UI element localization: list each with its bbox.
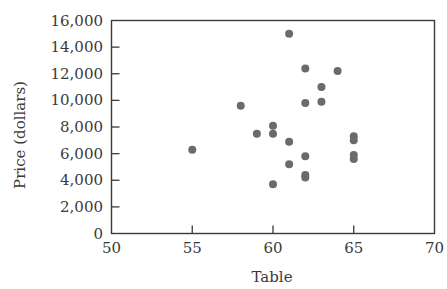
data-point — [269, 122, 277, 130]
data-point — [237, 102, 245, 110]
data-point — [253, 130, 261, 138]
data-point — [285, 160, 293, 168]
data-point — [350, 136, 358, 144]
x-tick-label: 50 — [102, 239, 121, 257]
data-point — [301, 64, 309, 72]
data-point — [334, 67, 342, 75]
data-point — [285, 138, 293, 146]
data-point — [269, 130, 277, 138]
data-point — [269, 180, 277, 188]
y-tick-label: 4,000 — [60, 171, 103, 189]
y-tick-label: 10,000 — [51, 91, 104, 109]
y-axis-title: Price (dollars) — [11, 81, 29, 189]
data-point — [285, 30, 293, 38]
data-point — [350, 155, 358, 163]
y-axis: 02,0004,0006,0008,00010,00012,00014,0001… — [51, 12, 120, 243]
data-point — [317, 83, 325, 91]
data-point — [301, 174, 309, 182]
scatter-chart: 02,0004,0006,0008,00010,00012,00014,0001… — [0, 0, 447, 289]
x-axis: 5055606570 — [102, 226, 444, 257]
y-tick-label: 2,000 — [60, 198, 103, 216]
data-point — [301, 99, 309, 107]
x-tick-label: 60 — [263, 239, 282, 257]
y-tick-label: 6,000 — [60, 145, 103, 163]
data-point — [301, 152, 309, 160]
x-tick-label: 55 — [183, 239, 202, 257]
x-axis-title: Table — [251, 268, 292, 286]
data-points — [188, 30, 358, 188]
data-point — [188, 146, 196, 154]
y-tick-label: 12,000 — [51, 65, 104, 83]
x-tick-label: 70 — [425, 239, 444, 257]
y-tick-label: 14,000 — [51, 38, 104, 56]
y-tick-label: 8,000 — [60, 118, 103, 136]
y-tick-label: 16,000 — [51, 12, 104, 30]
x-tick-label: 65 — [344, 239, 363, 257]
data-point — [317, 98, 325, 106]
